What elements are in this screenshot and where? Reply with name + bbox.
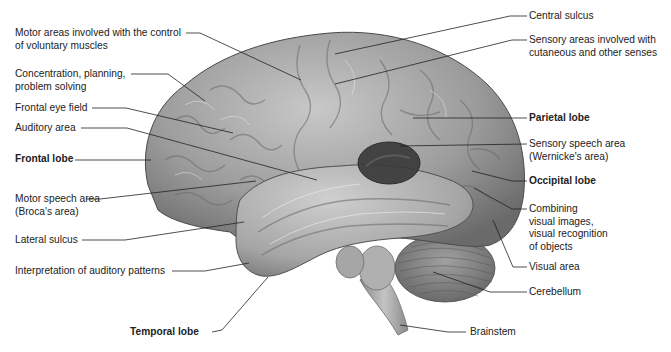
label-line: Lateral sulcus (15, 234, 78, 247)
label-line: of objects (529, 241, 608, 254)
label-line: Concentration, planning, (15, 68, 125, 81)
label-temporal-lobe: Temporal lobe (130, 326, 199, 339)
label-occipital-lobe: Occipital lobe (529, 175, 596, 188)
label-line: problem solving (15, 81, 125, 94)
label-central-sulcus: Central sulcus (529, 10, 594, 23)
label-line: Frontal eye field (15, 102, 87, 115)
label-visual-area: Visual area (529, 261, 580, 274)
label-line: Sensory areas involved with (529, 34, 657, 47)
label-frontal-lobe: Frontal lobe (15, 153, 73, 166)
label-line: Combining (529, 203, 608, 216)
label-line: Occipital lobe (529, 175, 596, 188)
label-line: Interpretation of auditory patterns (15, 265, 165, 278)
label-cerebellum: Cerebellum (529, 286, 581, 299)
label-motor-areas: Motor areas involved with the control of… (15, 27, 181, 52)
label-parietal-lobe: Parietal lobe (529, 112, 590, 125)
brain-diagram: Motor areas involved with the control of… (0, 0, 671, 352)
label-frontal-eye-field: Frontal eye field (15, 102, 87, 115)
label-line: Auditory area (15, 122, 76, 135)
label-brainstem: Brainstem (470, 326, 516, 339)
label-line: visual recognition (529, 228, 608, 241)
label-line: Motor areas involved with the control (15, 27, 181, 40)
label-lateral-sulcus: Lateral sulcus (15, 234, 78, 247)
label-line: cutaneous and other senses (529, 47, 657, 60)
label-motor-speech-area: Motor speech area (Broca's area) (15, 193, 100, 218)
label-interpretation-auditory: Interpretation of auditory patterns (15, 265, 165, 278)
label-line: Central sulcus (529, 10, 594, 23)
label-sensory-areas: Sensory areas involved with cutaneous an… (529, 34, 657, 59)
label-line: (Wernicke's area) (529, 151, 625, 164)
label-combining-visual: Combining visual images, visual recognit… (529, 203, 608, 253)
label-line: (Broca's area) (15, 206, 100, 219)
label-line: Frontal lobe (15, 153, 73, 166)
wernicke-area-shape (358, 142, 420, 184)
label-line: Temporal lobe (130, 326, 199, 339)
label-line: Parietal lobe (529, 112, 590, 125)
label-concentration: Concentration, planning, problem solving (15, 68, 125, 93)
label-line: Cerebellum (529, 286, 581, 299)
label-line: of voluntary muscles (15, 40, 181, 53)
label-sensory-speech-area: Sensory speech area (Wernicke's area) (529, 138, 625, 163)
label-line: Sensory speech area (529, 138, 625, 151)
label-line: Visual area (529, 261, 580, 274)
label-line: Brainstem (470, 326, 516, 339)
label-line: Motor speech area (15, 193, 100, 206)
label-auditory-area: Auditory area (15, 122, 76, 135)
label-line: visual images, (529, 216, 608, 229)
